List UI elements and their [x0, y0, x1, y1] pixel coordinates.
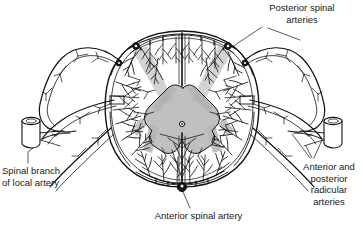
- leader-spinal-branch: [28, 148, 33, 163]
- leader-posterior-outer: [268, 28, 300, 40]
- figure-canvas: Posterior spinal arteries Spinal branch …: [0, 0, 363, 230]
- leader-anterior-spinal: [183, 192, 190, 208]
- posterior-spinal-artery-right-node: [225, 43, 232, 50]
- label-anterior-spinal-artery: Anterior spinal artery: [131, 210, 266, 222]
- label-posterior-spinal-arteries: Posterior spinal arteries: [243, 2, 361, 25]
- label-spinal-branch-of-local-artery: Spinal branch of local artery: [2, 165, 107, 188]
- leader-posterior-right: [232, 27, 262, 47]
- posterior-median-septum: [179, 33, 185, 86]
- anterior-spinal-artery-node: [177, 182, 186, 191]
- leader-radicular-c: [292, 134, 310, 158]
- label-anterior-and-posterior-radicular-arteries: Anterior and posterior radicular arterie…: [296, 161, 362, 207]
- posterior-spinal-artery-left-node: [133, 43, 140, 50]
- central-canal: [179, 121, 184, 126]
